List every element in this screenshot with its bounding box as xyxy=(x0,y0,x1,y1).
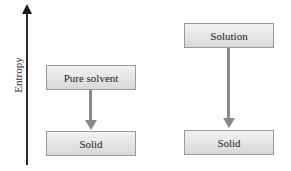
right-solid-label: Solid xyxy=(217,137,240,149)
left-transition-arrowhead-icon xyxy=(85,120,97,130)
right-transition-arrowhead-icon xyxy=(223,118,235,128)
entropy-axis-line xyxy=(26,12,28,165)
solution-box: Solution xyxy=(184,23,274,48)
right-transition-arrow-line xyxy=(227,48,230,120)
left-solid-box: Solid xyxy=(46,131,136,156)
entropy-axis-label: Entropy xyxy=(12,57,24,92)
left-transition-arrow-line xyxy=(89,90,92,122)
right-solid-box: Solid xyxy=(184,130,274,155)
pure-solvent-label: Pure solvent xyxy=(64,72,119,84)
pure-solvent-box: Pure solvent xyxy=(46,65,136,90)
left-solid-label: Solid xyxy=(79,138,102,150)
solution-label: Solution xyxy=(210,30,247,42)
entropy-axis-arrowhead-icon xyxy=(22,4,32,14)
